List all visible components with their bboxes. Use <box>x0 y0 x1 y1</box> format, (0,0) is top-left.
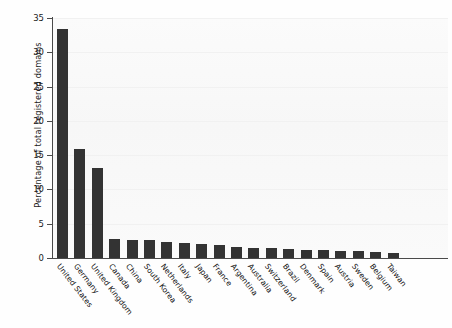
y-tick-mark <box>47 87 52 88</box>
plot-area <box>52 18 448 258</box>
y-tick-mark <box>47 121 52 122</box>
bar <box>179 243 190 258</box>
y-axis-title: Percentage of total registered domains <box>33 25 43 225</box>
bar-series <box>52 18 448 258</box>
bar <box>283 249 294 258</box>
bar <box>266 248 277 258</box>
bar <box>231 247 242 258</box>
bar <box>127 240 138 259</box>
y-tick-mark <box>47 18 52 19</box>
x-tick-label: Japan <box>194 262 214 285</box>
bar <box>301 250 312 258</box>
bar <box>214 245 225 258</box>
bar <box>353 251 364 258</box>
bar <box>335 251 346 258</box>
y-axis-line <box>52 17 53 259</box>
bar <box>161 242 172 258</box>
y-tick-mark <box>47 155 52 156</box>
y-tick-mark <box>47 52 52 53</box>
bar-chart: 05101520253035 Percentage of total regis… <box>0 0 452 328</box>
bar <box>109 239 120 258</box>
x-axis-labels: United StatesGermanyUnited KingdomCanada… <box>52 259 452 328</box>
bar <box>74 149 85 258</box>
y-tick-label: 0 <box>2 254 44 263</box>
bar <box>144 240 155 259</box>
bar <box>318 250 329 258</box>
bar <box>248 248 259 258</box>
bar <box>92 168 103 258</box>
bar <box>196 244 207 258</box>
y-tick-mark <box>47 224 52 225</box>
y-tick-mark <box>47 189 52 190</box>
y-tick-label: 35 <box>2 14 44 23</box>
bar <box>57 29 68 258</box>
